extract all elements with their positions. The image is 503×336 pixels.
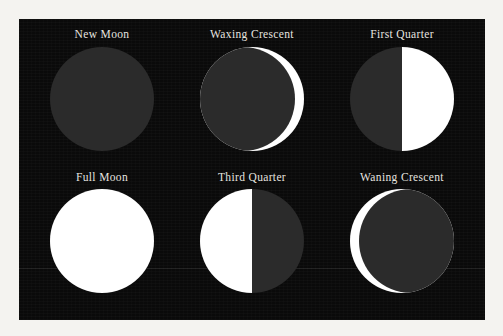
phase-label-full-moon: Full Moon (76, 172, 128, 184)
phase-cell-waxing-crescent: Waxing Crescent (177, 25, 327, 168)
moon-lit-region (350, 47, 454, 151)
moon-lit-region (350, 189, 454, 293)
moon-lit-region (50, 47, 154, 151)
phase-label-waning-crescent: Waning Crescent (360, 172, 444, 184)
moon-lit-region (200, 47, 304, 151)
moon-graphic-waxing-crescent (200, 47, 304, 151)
page: New Moon Waxing Crescent First Quart (0, 0, 503, 336)
phase-cell-new-moon: New Moon (27, 25, 177, 168)
moon-graphic-new-moon (50, 47, 154, 151)
moon-graphic-full-moon (50, 189, 154, 293)
moon-graphic-waning-crescent (350, 189, 454, 293)
phase-cell-first-quarter: First Quarter (327, 25, 477, 168)
phase-label-first-quarter: First Quarter (370, 29, 434, 41)
phase-label-waxing-crescent: Waxing Crescent (210, 29, 294, 41)
moon-shadow-mask (359, 189, 454, 293)
moon-phase-panel: New Moon Waxing Crescent First Quart (19, 19, 485, 320)
moon-graphic-first-quarter (350, 47, 454, 151)
phase-cell-third-quarter: Third Quarter (177, 168, 327, 311)
phase-label-third-quarter: Third Quarter (218, 172, 286, 184)
moon-phase-grid: New Moon Waxing Crescent First Quart (19, 19, 485, 320)
moon-lit-region (50, 189, 154, 293)
moon-graphic-third-quarter (200, 189, 304, 293)
phase-cell-waning-crescent: Waning Crescent (327, 168, 477, 311)
phase-cell-full-moon: Full Moon (27, 168, 177, 311)
moon-shadow-mask (200, 47, 295, 151)
moon-lit-region (200, 189, 304, 293)
phase-label-new-moon: New Moon (75, 29, 130, 41)
